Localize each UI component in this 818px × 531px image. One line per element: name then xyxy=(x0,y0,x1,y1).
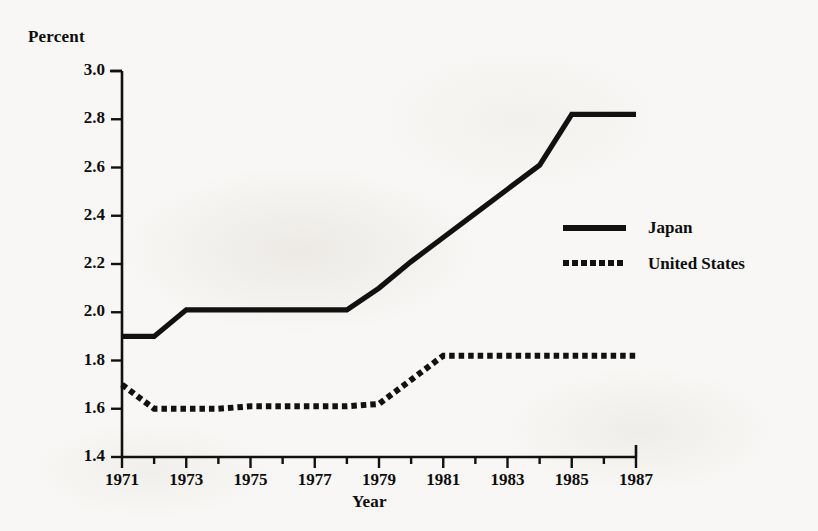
y-tick-label: 2.6 xyxy=(57,157,105,177)
x-tick-label: 1985 xyxy=(543,470,601,490)
chart-figure: Percent Year 3.02.82.62.42.22.01.81.61.4… xyxy=(0,0,818,531)
x-tick-label: 1973 xyxy=(157,470,215,490)
legend-swatch-united-states xyxy=(563,260,626,266)
x-tick-label: 1975 xyxy=(222,470,280,490)
legend-swatch-japan xyxy=(563,225,626,231)
y-tick-label: 2.0 xyxy=(57,301,105,321)
y-tick-marks xyxy=(111,71,122,457)
x-tick-label: 1977 xyxy=(286,470,344,490)
y-tick-label: 2.2 xyxy=(57,253,105,273)
y-tick-label: 1.4 xyxy=(57,446,105,466)
x-tick-marks xyxy=(122,457,636,468)
y-tick-label: 1.6 xyxy=(57,398,105,418)
x-tick-label: 1979 xyxy=(350,470,408,490)
legend-label-japan: Japan xyxy=(648,218,692,238)
x-tick-label: 1981 xyxy=(414,470,472,490)
y-tick-label: 3.0 xyxy=(57,60,105,80)
y-tick-label: 2.4 xyxy=(57,205,105,225)
legend-label-united-states: United States xyxy=(648,254,745,274)
x-tick-label: 1983 xyxy=(479,470,537,490)
y-tick-label: 1.8 xyxy=(57,350,105,370)
x-tick-label: 1971 xyxy=(93,470,151,490)
y-tick-label: 2.8 xyxy=(57,108,105,128)
series-line-japan xyxy=(122,114,636,336)
axes-group xyxy=(110,71,636,457)
series-line-united-states xyxy=(122,356,636,409)
x-tick-label: 1987 xyxy=(607,470,665,490)
